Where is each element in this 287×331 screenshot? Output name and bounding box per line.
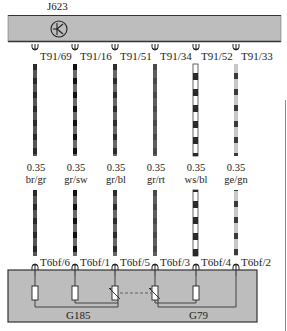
wire-gr-sw bbox=[73, 64, 77, 156]
resistor-icon bbox=[72, 286, 78, 300]
wire-size-label: 0.35 bbox=[147, 162, 165, 173]
wire-ge-gn bbox=[234, 64, 238, 156]
wire-size-label: 0.35 bbox=[187, 162, 205, 173]
connector-icon bbox=[72, 44, 78, 50]
wire-gr-bl bbox=[113, 190, 117, 256]
wire-color-label: ws/bl bbox=[185, 174, 208, 185]
wire-color-label: gr/bl bbox=[106, 174, 126, 185]
wires-lower bbox=[33, 190, 238, 256]
wire-gr-sw bbox=[73, 190, 77, 256]
connector-icon bbox=[233, 44, 239, 50]
bottom-module-sensors bbox=[8, 270, 257, 322]
wire-color-label: br/gr bbox=[26, 174, 47, 185]
wire-size-label: 0.35 bbox=[107, 162, 125, 173]
terminal-label-bottom: T6bf/3 bbox=[160, 256, 190, 268]
connector-icon bbox=[112, 44, 118, 50]
wire-size-label: 0.35 bbox=[67, 162, 85, 173]
terminal-label-top: T91/69 bbox=[40, 50, 72, 62]
wire-ws-bl bbox=[193, 64, 198, 156]
module-label-j623: J623 bbox=[47, 0, 68, 12]
terminal-label-bottom: T6bf/2 bbox=[241, 256, 271, 268]
terminal-label-bottom: T6bf/4 bbox=[201, 256, 231, 268]
top-module-j623 bbox=[8, 15, 281, 42]
connector-icon bbox=[152, 44, 158, 50]
wire-size-label: 0.35 bbox=[227, 162, 245, 173]
wire-ws-bl bbox=[193, 190, 198, 256]
resistor-icon bbox=[193, 286, 199, 300]
wire-br-gr bbox=[33, 64, 37, 156]
wire-gr-bl bbox=[113, 64, 117, 156]
terminal-label-bottom: T6bf/5 bbox=[120, 256, 150, 268]
wire-color-label: gr/rt bbox=[147, 174, 165, 185]
wire-gr-rt bbox=[153, 190, 157, 256]
wire-color-label: ge/gn bbox=[224, 174, 248, 185]
terminal-label-top: T91/33 bbox=[241, 50, 273, 62]
wire-labels: 0.35 br/gr 0.35 gr/sw 0.35 gr/bl 0.35 gr… bbox=[26, 162, 249, 185]
connector-icon bbox=[193, 44, 199, 50]
terminal-label-top: T91/34 bbox=[160, 50, 192, 62]
resistor-icon bbox=[32, 286, 38, 300]
terminal-label-top: T91/16 bbox=[80, 50, 112, 62]
wiring-diagram: J623 T91/69 T91/16 T91/51 T91/34 T91/52 … bbox=[0, 0, 287, 331]
wires-upper bbox=[33, 64, 238, 156]
terminal-label-bottom: T6bf/6 bbox=[40, 256, 70, 268]
terminal-label-bottom: T6bf/1 bbox=[80, 256, 110, 268]
wire-br-gr bbox=[33, 190, 37, 256]
wire-size-label: 0.35 bbox=[27, 162, 45, 173]
sensor-label-g79: G79 bbox=[189, 309, 208, 321]
wire-ge-gn bbox=[234, 190, 238, 256]
terminal-label-top: T91/52 bbox=[201, 50, 233, 62]
wire-gr-rt bbox=[153, 64, 157, 156]
wire-color-label: gr/sw bbox=[64, 174, 88, 185]
sensor-label-g185: G185 bbox=[66, 309, 91, 321]
connector-icon bbox=[32, 44, 38, 50]
terminal-label-top: T91/51 bbox=[120, 50, 152, 62]
